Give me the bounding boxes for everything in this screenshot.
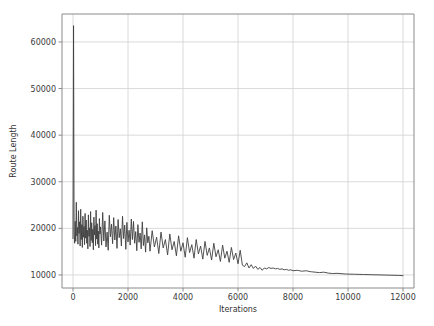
y-tick-label: 10000 — [31, 271, 56, 280]
x-tick-label: 0 — [70, 293, 75, 302]
y-tick-label: 40000 — [31, 131, 56, 140]
x-tick-label: 6000 — [228, 293, 248, 302]
x-axis-title: Iterations — [219, 305, 257, 314]
y-axis-title: Route Length — [9, 124, 18, 177]
y-tick-label: 50000 — [31, 85, 56, 94]
x-tick-label: 10000 — [335, 293, 360, 302]
x-tick-label: 2000 — [118, 293, 138, 302]
x-tick-label: 4000 — [173, 293, 193, 302]
y-tick-label: 30000 — [31, 178, 56, 187]
x-tick-label: 8000 — [283, 293, 303, 302]
y-tick-label: 20000 — [31, 224, 56, 233]
line-chart: 020004000600080001000012000 100002000030… — [0, 0, 434, 326]
y-tick-label: 60000 — [31, 38, 56, 47]
figure-canvas: 020004000600080001000012000 100002000030… — [0, 0, 434, 326]
x-tick-label: 12000 — [390, 293, 415, 302]
